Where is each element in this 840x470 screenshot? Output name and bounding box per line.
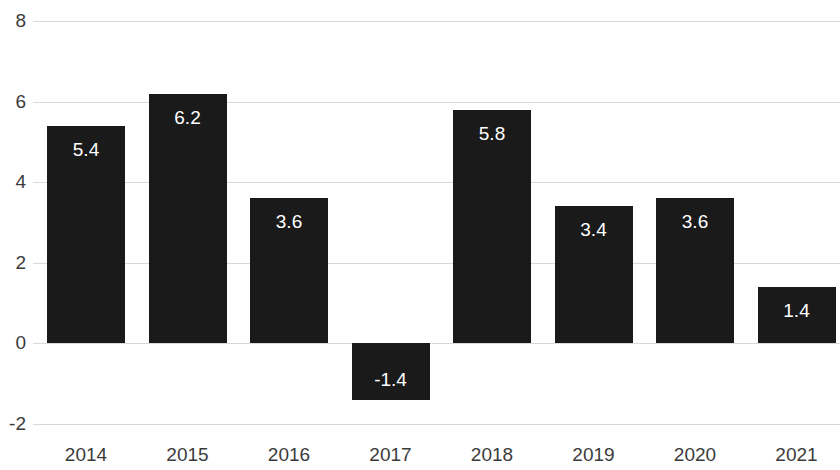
bar-value-label: 3.6 — [250, 212, 328, 231]
x-axis-tick-label: 2021 — [758, 445, 836, 464]
x-axis-tick-label: 2015 — [149, 445, 227, 464]
gridline — [33, 343, 840, 344]
bar-value-label: 5.8 — [453, 124, 531, 143]
bar[interactable] — [453, 110, 531, 344]
bar-value-label: -1.4 — [352, 370, 430, 389]
bar-chart: 86420-2 5.46.23.6-1.45.83.43.61.4 201420… — [0, 0, 840, 470]
bar-value-label: 6.2 — [149, 108, 227, 127]
bar[interactable] — [149, 94, 227, 344]
bar-value-label: 3.4 — [555, 220, 633, 239]
gridline — [33, 21, 840, 22]
y-axis-tick-label: 4 — [0, 172, 26, 191]
x-axis-tick-label: 2018 — [453, 445, 531, 464]
y-axis-tick-label: 0 — [0, 333, 26, 352]
bar-value-label: 1.4 — [758, 301, 836, 320]
x-axis-tick-label: 2017 — [352, 445, 430, 464]
gridline — [33, 424, 840, 425]
bar-value-label: 3.6 — [656, 212, 734, 231]
y-axis-tick-label: -2 — [0, 414, 26, 433]
x-axis-tick-label: 2014 — [47, 445, 125, 464]
plot-area: 86420-2 5.46.23.6-1.45.83.43.61.4 201420… — [0, 0, 840, 470]
bar-value-label: 5.4 — [47, 140, 125, 159]
y-axis-tick-label: 2 — [0, 253, 26, 272]
x-axis-tick-label: 2020 — [656, 445, 734, 464]
x-axis-tick-label: 2019 — [555, 445, 633, 464]
y-axis-tick-label: 8 — [0, 11, 26, 30]
y-axis-tick-label: 6 — [0, 92, 26, 111]
x-axis-tick-label: 2016 — [250, 445, 328, 464]
